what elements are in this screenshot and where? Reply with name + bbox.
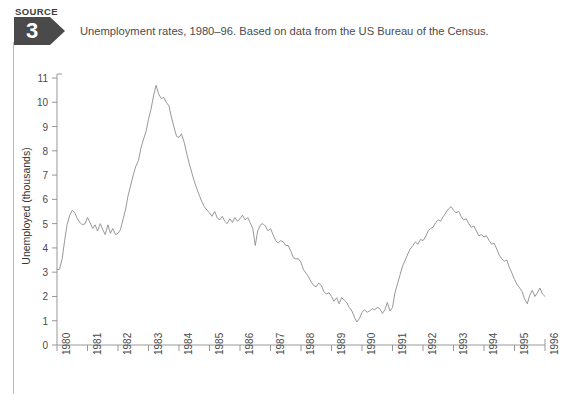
unemployment-series-line — [57, 85, 545, 322]
x-tick-label: 1982 — [122, 333, 133, 355]
x-tick-label: 1990 — [366, 333, 377, 355]
x-tick-label: 1987 — [275, 333, 286, 355]
axis-lines — [57, 74, 545, 345]
x-tick-label: 1988 — [305, 333, 316, 355]
figure-caption: Unemployment rates, 1980–96. Based on da… — [80, 25, 489, 37]
x-tick-label: 1993 — [458, 333, 469, 355]
x-tick-label: 1980 — [61, 333, 72, 355]
y-tick-label: 7 — [28, 170, 48, 181]
x-tick-label: 1994 — [488, 333, 499, 355]
source-badge-number: 3 — [14, 17, 50, 45]
y-tick-label: 11 — [28, 73, 48, 84]
y-tick-label: 3 — [28, 267, 48, 278]
y-tick-label: 4 — [28, 242, 48, 253]
x-tick-label: 1996 — [549, 333, 560, 355]
y-tick-label: 2 — [28, 291, 48, 302]
x-tick-label: 1981 — [92, 333, 103, 355]
x-tick-label: 1985 — [214, 333, 225, 355]
y-tick-label: 6 — [28, 194, 48, 205]
source-badge: SOURCE 3 — [14, 6, 68, 46]
plot-surface — [0, 52, 580, 412]
y-tick-label: 8 — [28, 145, 48, 156]
x-tick-label: 1989 — [336, 333, 347, 355]
x-tick-label: 1991 — [397, 333, 408, 355]
x-tick-label: 1995 — [519, 333, 530, 355]
y-tick-label: 10 — [28, 97, 48, 108]
y-tick-label: 0 — [28, 340, 48, 351]
x-tick-label: 1984 — [183, 333, 194, 355]
figure-header: SOURCE 3 Unemployment rates, 1980–96. Ba… — [14, 6, 574, 46]
source-badge-word: SOURCE — [15, 6, 58, 17]
y-tick-label: 5 — [28, 218, 48, 229]
x-tick-label: 1992 — [427, 333, 438, 355]
y-tick-label: 1 — [28, 315, 48, 326]
axis-tick-marks — [52, 78, 545, 351]
x-tick-label: 1983 — [153, 333, 164, 355]
x-tick-label: 1986 — [244, 333, 255, 355]
line-chart: Unemployed (thousands) 01234567891011 19… — [0, 52, 580, 412]
y-tick-label: 9 — [28, 121, 48, 132]
source-figure: SOURCE 3 Unemployment rates, 1980–96. Ba… — [0, 0, 580, 412]
